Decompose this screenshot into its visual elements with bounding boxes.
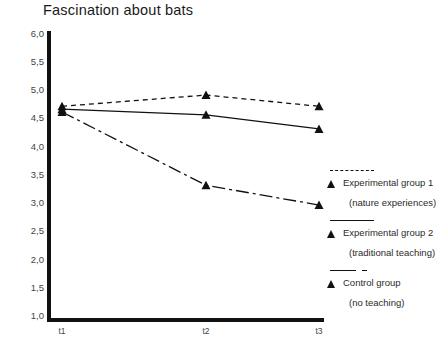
legend-sublabel: (no teaching) bbox=[349, 297, 446, 308]
legend-key-dotted-line bbox=[330, 166, 378, 176]
legend-sublabel: (nature experiences) bbox=[349, 197, 446, 208]
series-line-1 bbox=[62, 95, 319, 106]
legend-label: Control group bbox=[343, 277, 401, 289]
data-point-marker bbox=[202, 181, 211, 190]
triangle-marker-icon bbox=[326, 278, 337, 290]
legend-label: Experimental group 1 bbox=[343, 177, 433, 189]
series-line-3 bbox=[62, 112, 319, 205]
triangle-marker-icon bbox=[326, 228, 337, 240]
chart-container: Fascination about bats 6,0 5,5 5,0 4,5 4… bbox=[0, 0, 446, 350]
legend-key-dashdot-line bbox=[330, 266, 378, 276]
legend-entry-experimental-group-2: Experimental group 2 (traditional teachi… bbox=[326, 216, 446, 258]
legend-entry-control-group: Control group (no teaching) bbox=[326, 266, 446, 308]
triangle-marker-icon bbox=[326, 178, 337, 190]
legend-label: Experimental group 2 bbox=[343, 227, 433, 239]
series-line-2 bbox=[62, 109, 319, 129]
legend-sublabel: (traditional teaching) bbox=[349, 247, 446, 258]
legend-entry-experimental-group-1: Experimental group 1 (nature experiences… bbox=[326, 166, 446, 208]
chart-legend: Experimental group 1 (nature experiences… bbox=[326, 166, 446, 316]
legend-key-solid-line bbox=[330, 216, 378, 226]
